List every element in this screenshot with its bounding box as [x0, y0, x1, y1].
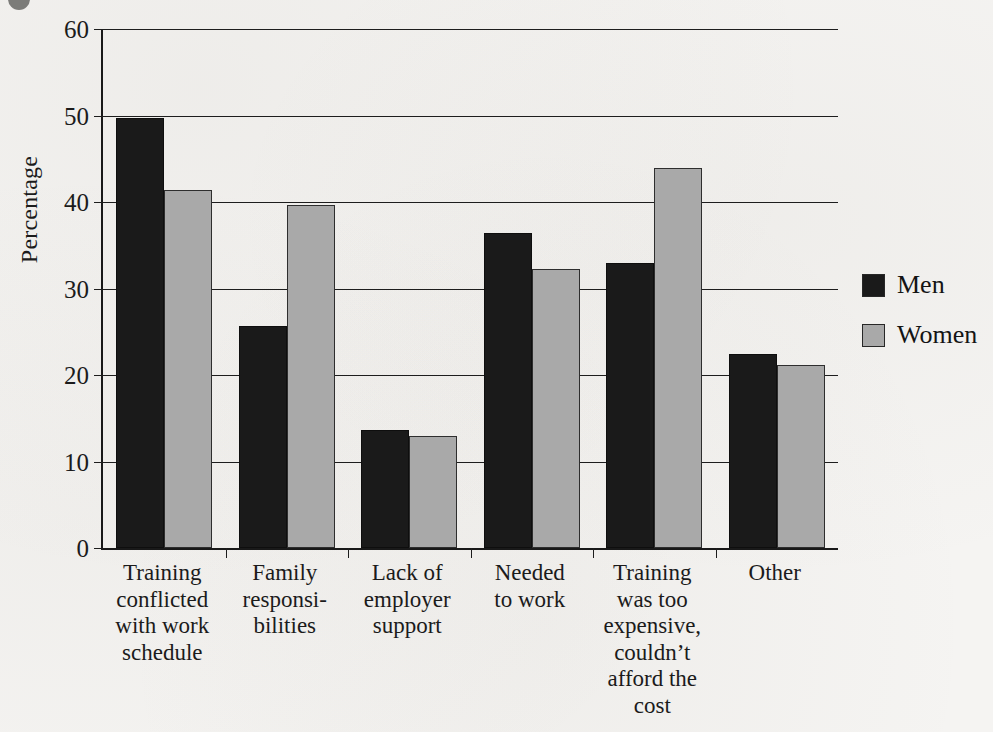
chart-legend: Men Women — [862, 260, 988, 360]
gridline-10 — [103, 462, 838, 463]
legend-item-men: Men — [862, 260, 988, 310]
bar-men-group-3 — [361, 430, 409, 548]
bar-women-group-2 — [287, 205, 335, 548]
x-axis-label-3: Lack ofemployersupport — [346, 560, 469, 640]
gridline-20 — [103, 375, 838, 376]
bar-women-group-4 — [532, 269, 580, 548]
x-axis-label-4: Neededto work — [469, 560, 592, 613]
page-scan-artifact — [8, 0, 30, 10]
y-axis-tick-label-40: 40 — [64, 190, 89, 215]
x-axis-label-1: Trainingconflictedwith workschedule — [101, 560, 224, 666]
y-axis-tick-0 — [94, 548, 103, 549]
y-axis-tick-30 — [94, 289, 103, 290]
x-axis-tick-1 — [226, 548, 227, 558]
x-axis-label-2: Familyresponsi-bilities — [224, 560, 347, 640]
gridline-50 — [103, 116, 838, 117]
bar-women-group-5 — [654, 168, 702, 548]
bar-men-group-4 — [484, 233, 532, 548]
y-axis-tick-label-60: 60 — [64, 17, 89, 42]
y-axis-tick-label-0: 0 — [77, 536, 90, 561]
bar-men-group-6 — [729, 354, 777, 548]
y-axis-tick-60 — [94, 29, 103, 30]
bar-men-group-2 — [239, 326, 287, 548]
x-axis-label-5: Trainingwas tooexpensive,couldn’tafford … — [591, 560, 714, 719]
x-axis-tick-2 — [348, 548, 349, 558]
y-axis-tick-20 — [94, 375, 103, 376]
legend-swatch-women-icon — [862, 324, 885, 347]
gridline-60 — [103, 29, 838, 30]
legend-label-men: Men — [897, 272, 945, 298]
y-axis-tick-40 — [94, 202, 103, 203]
bar-women-group-6 — [777, 365, 825, 548]
x-axis-label-6: Other — [714, 560, 837, 587]
y-axis-tick-label-10: 10 — [64, 449, 89, 474]
plot-area: 0102030405060 — [101, 29, 838, 550]
legend-label-women: Women — [897, 322, 977, 348]
y-axis-tick-10 — [94, 462, 103, 463]
y-axis-tick-label-30: 30 — [64, 276, 89, 301]
chart-page: Percentage 0102030405060 Trainingconflic… — [0, 0, 993, 732]
bar-men-group-5 — [606, 263, 654, 548]
x-axis-labels: Trainingconflictedwith workscheduleFamil… — [101, 560, 838, 728]
x-axis-tick-3 — [471, 548, 472, 558]
legend-item-women: Women — [862, 310, 988, 360]
bar-women-group-3 — [409, 436, 457, 548]
y-axis-tick-label-50: 50 — [64, 103, 89, 128]
y-axis-tick-label-20: 20 — [64, 363, 89, 388]
gridline-40 — [103, 202, 838, 203]
bar-women-group-1 — [164, 190, 212, 548]
legend-swatch-men-icon — [862, 274, 885, 297]
y-axis-title: Percentage — [16, 100, 43, 320]
x-axis-tick-4 — [593, 548, 594, 558]
y-axis-tick-50 — [94, 116, 103, 117]
bar-men-group-1 — [116, 118, 164, 548]
x-axis-tick-5 — [716, 548, 717, 558]
gridline-30 — [103, 289, 838, 290]
